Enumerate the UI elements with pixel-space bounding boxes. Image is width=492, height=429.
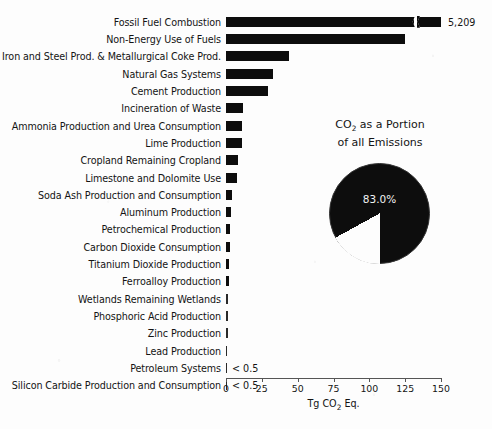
bar-row: Natural Gas Systems — [0, 65, 492, 82]
x-axis-tick — [262, 378, 263, 382]
bar-row: Phosphoric Acid Production — [0, 307, 492, 324]
bar — [226, 259, 229, 269]
bar-category-label: Limestone and Dolomite Use — [85, 172, 221, 183]
x-axis-tick — [298, 378, 299, 382]
x-axis-tick — [405, 378, 406, 382]
bar-row: Zinc Production — [0, 325, 492, 342]
pie-slice-other — [329, 163, 430, 264]
bar-row: Wetlands Remaining Wetlands — [0, 290, 492, 307]
bar — [226, 69, 273, 79]
bar — [226, 103, 243, 113]
bar — [226, 121, 242, 131]
bar-category-label: Silicon Carbide Production and Consumpti… — [12, 380, 221, 391]
bar-category-label: Lead Production — [145, 345, 221, 356]
bar — [226, 86, 268, 96]
bar-category-label: Titanium Dioxide Production — [89, 259, 221, 270]
bar — [226, 17, 441, 27]
x-axis-title: Tg CO2 Eq. — [226, 398, 441, 412]
x-axis-tick — [334, 378, 335, 382]
chart-figure: Fossil Fuel Combustion5,209Non-Energy Us… — [0, 0, 492, 429]
bar-category-label: Ammonia Production and Urea Consumption — [12, 120, 221, 131]
x-axis-tick — [226, 378, 227, 382]
bar-row: Fossil Fuel Combustion5,209 — [0, 13, 492, 30]
bar-row: Ferroalloy Production — [0, 273, 492, 290]
bar-category-label: Wetlands Remaining Wetlands — [78, 293, 221, 304]
bar-category-label: Petrochemical Production — [102, 224, 222, 235]
bar-category-label: Lime Production — [145, 137, 221, 148]
bar-row: Non-Energy Use of Fuels — [0, 31, 492, 48]
bar — [226, 34, 405, 44]
bar-category-label: Aluminum Production — [120, 207, 221, 218]
bar-category-label: Carbon Dioxide Consumption — [83, 241, 221, 252]
bar-row: Lead Production — [0, 342, 492, 359]
bar — [226, 173, 237, 183]
bar-category-label: Ferroalloy Production — [122, 276, 221, 287]
bar-category-label: Cropland Remaining Cropland — [80, 155, 221, 166]
bar — [226, 224, 230, 234]
bar — [226, 51, 289, 61]
pie-title-line2: of all Emissions — [337, 136, 422, 149]
x-axis-tick-label: 25 — [256, 383, 268, 394]
bar-row: Silicon Carbide Production and Consumpti… — [0, 377, 492, 394]
bar — [226, 276, 229, 286]
bar-row: Petroleum Systems< 0.5 — [0, 359, 492, 376]
bar-less-than-label: < 0.5 — [232, 380, 258, 391]
x-axis-tick-label: 75 — [328, 383, 340, 394]
bar — [226, 363, 227, 373]
bar-category-label: Incineration of Waste — [121, 103, 221, 114]
x-axis-tick-label: 0 — [223, 383, 229, 394]
bar-less-than-label: < 0.5 — [232, 362, 258, 373]
x-axis-tick-label: 125 — [396, 383, 414, 394]
bar — [226, 311, 228, 321]
x-axis-tick — [369, 378, 370, 382]
bar-category-label: Cement Production — [131, 86, 221, 97]
bar — [226, 207, 231, 217]
bar-row: Iron and Steel Prod. & Metallurgical Cok… — [0, 48, 492, 65]
x-axis-tick-label: 150 — [432, 383, 450, 394]
x-axis-tick — [441, 378, 442, 382]
bar — [226, 346, 227, 356]
bar-category-label: Petroleum Systems — [130, 362, 221, 373]
bar — [226, 328, 228, 338]
bar-category-label: Soda Ash Production and Consumption — [38, 189, 221, 200]
bar-category-label: Zinc Production — [148, 328, 221, 339]
bar-value-label: 5,209 — [448, 16, 475, 27]
bar-category-label: Fossil Fuel Combustion — [114, 16, 221, 27]
bar-row: Incineration of Waste — [0, 100, 492, 117]
pie-title-line1: CO2 as a Portion — [335, 118, 424, 131]
bar — [226, 155, 238, 165]
bar-category-label: Phosphoric Acid Production — [93, 310, 221, 321]
bar — [226, 242, 230, 252]
bar — [226, 138, 242, 148]
bar-category-label: Iron and Steel Prod. & Metallurgical Cok… — [2, 51, 221, 62]
bar-category-label: Non-Energy Use of Fuels — [106, 34, 221, 45]
pie-percent-label: 83.0% — [329, 193, 430, 205]
bar-row: Cement Production — [0, 82, 492, 99]
bar — [226, 294, 228, 304]
pie-chart-title: CO2 as a Portion of all Emissions — [300, 118, 460, 150]
bar-category-label: Natural Gas Systems — [122, 68, 221, 79]
x-axis-tick-label: 50 — [292, 383, 304, 394]
pie-chart: 83.0% — [329, 163, 430, 264]
x-axis-tick-label: 100 — [360, 383, 378, 394]
bar — [226, 190, 232, 200]
